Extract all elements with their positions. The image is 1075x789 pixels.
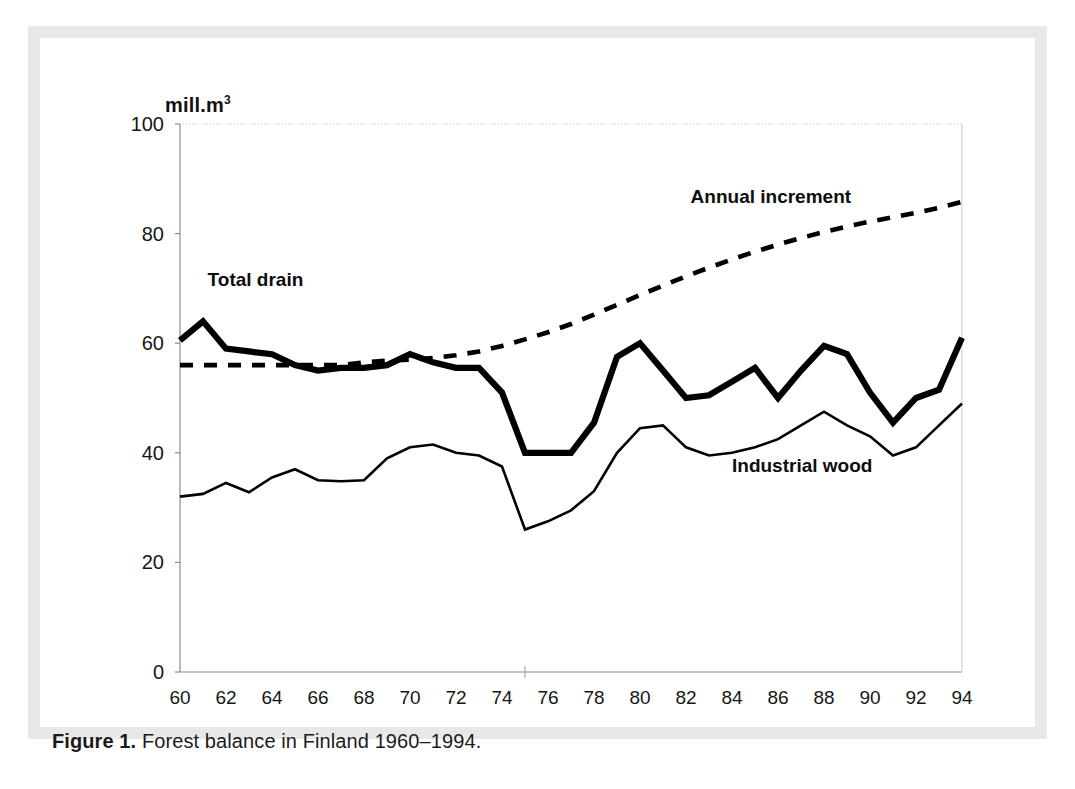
- figure-frame: mill.m3 020406080100 6062646668707274767…: [28, 26, 1047, 739]
- series-label-annual-increment: Annual increment: [691, 186, 852, 207]
- x-axis-tick-label: 68: [353, 687, 374, 708]
- series-label-total-drain: Total drain: [208, 269, 304, 290]
- x-axis-tick-label: 66: [307, 687, 328, 708]
- figure-inner-panel: mill.m3 020406080100 6062646668707274767…: [40, 38, 1035, 727]
- y-axis-tick-label: 0: [153, 661, 164, 683]
- x-axis-tick-label: 64: [261, 687, 283, 708]
- caption-figure-number: Figure 1.: [52, 730, 136, 752]
- y-axis-tick-label: 80: [142, 223, 164, 245]
- x-axis-tick-label: 88: [813, 687, 834, 708]
- y-axis-tick-label: 60: [142, 332, 164, 354]
- line-chart-svg: 020406080100 606264666870727476788082848…: [40, 38, 1035, 727]
- y-axis-tick-labels: 020406080100: [131, 113, 180, 683]
- data-series-group: [180, 202, 962, 530]
- series-line-total-drain: [180, 321, 962, 453]
- x-axis-tick-label: 86: [767, 687, 788, 708]
- series-label-industrial-wood: Industrial wood: [732, 455, 872, 476]
- x-axis-tick-label: 90: [859, 687, 880, 708]
- x-axis-tick-label: 60: [169, 687, 190, 708]
- x-axis-tick-label: 72: [445, 687, 466, 708]
- x-axis-tick-label: 74: [491, 687, 513, 708]
- x-axis-tick-label: 84: [721, 687, 743, 708]
- x-axis-tick-labels: 606264666870727476788082848688909294: [169, 687, 973, 708]
- x-axis-tick-label: 92: [905, 687, 926, 708]
- y-axis-tick-label: 20: [142, 551, 164, 573]
- y-axis-tick-label: 40: [142, 442, 164, 464]
- x-axis-tick-label: 82: [675, 687, 696, 708]
- y-axis-tick-label: 100: [131, 113, 164, 135]
- chart-plot-area: mill.m3 020406080100 6062646668707274767…: [40, 38, 1035, 696]
- x-axis-tick-label: 94: [951, 687, 973, 708]
- x-axis-tick-label: 78: [583, 687, 604, 708]
- x-axis-tick-label: 62: [215, 687, 236, 708]
- figure-caption: Figure 1. Forest balance in Finland 1960…: [52, 730, 1032, 753]
- x-axis-tick-label: 80: [629, 687, 650, 708]
- x-axis-tick-label: 70: [399, 687, 420, 708]
- series-annotation-labels: Total drainAnnual incrementIndustrial wo…: [208, 186, 873, 476]
- caption-description: Forest balance in Finland 1960–1994.: [136, 730, 481, 752]
- x-axis-tick-label: 76: [537, 687, 558, 708]
